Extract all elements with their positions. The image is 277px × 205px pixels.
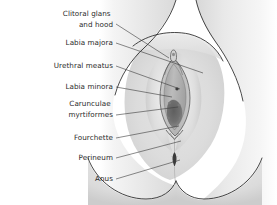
label-anus: Anus [95,174,113,183]
anatomical-diagram-vulva: Clitoral glans and hood Labia majora Ure… [0,0,277,205]
label-labia-minora: Labia minora [65,82,113,91]
clitoral-glans [172,53,175,57]
label-perineum: Perineum [79,153,113,162]
label-clitoral-glans-and-hood: Clitoral glans and hood [63,9,113,29]
label-labia-majora: Labia majora [66,38,113,47]
label-carunculae-myrtiformes: Carunculae myrtiformes [69,99,114,119]
label-fourchette: Fourchette [74,133,114,142]
label-urethral-meatus: Urethral meatus [54,61,113,70]
diagram-canvas: Clitoral glans and hood Labia majora Ure… [0,0,277,205]
